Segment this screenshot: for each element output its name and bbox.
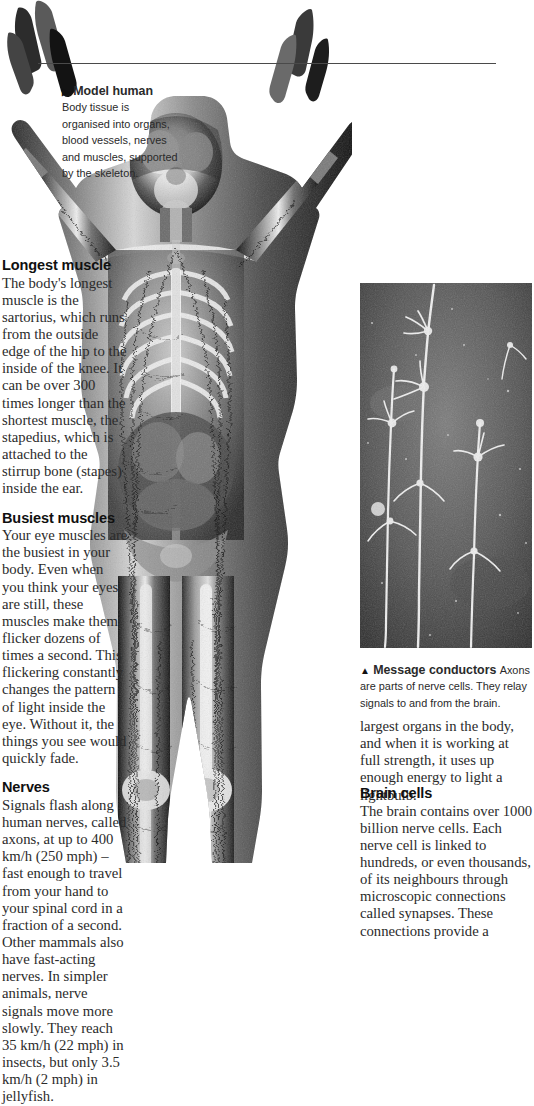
axon-micrograph	[360, 283, 532, 648]
left-text-column: Longest muscle The body's longest muscle…	[2, 258, 128, 1106]
paragraph-nerves: Signals flash along human nerves, called…	[2, 797, 128, 1106]
heading-busiest-muscles: Busiest muscles	[2, 511, 128, 527]
message-conductors-caption: ▲ Message conductors Axons are parts of …	[360, 662, 532, 711]
paragraph-longest-muscle: The body's longest muscle is the sartori…	[2, 275, 128, 498]
caption-arrow-icon: ▶	[62, 86, 70, 97]
brain-cells-section: Brain cells The brain contains over 1000…	[360, 786, 534, 940]
paragraph-busiest-muscles: Your eye muscles are the busiest in your…	[2, 527, 128, 767]
caption-triangle-icon: ▲	[360, 665, 370, 676]
model-human-caption: ▶ Model human Body tissue is organised i…	[62, 83, 180, 181]
caption-text: Body tissue is organised into organs, bl…	[62, 101, 178, 179]
caption-lead: Message conductors	[373, 663, 496, 677]
header-rule	[38, 63, 496, 64]
caption-lead: Model human	[73, 84, 153, 98]
heading-longest-muscle: Longest muscle	[2, 258, 128, 274]
paragraph-brain-cells: The brain contains over 1000 billion ner…	[360, 803, 534, 940]
heading-nerves: Nerves	[2, 780, 128, 796]
heading-brain-cells: Brain cells	[360, 786, 534, 802]
